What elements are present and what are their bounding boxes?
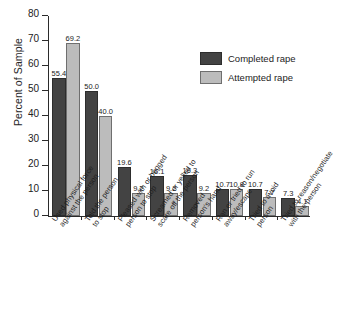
- y-axis-tick: 30: [42, 140, 48, 141]
- legend-item: Completed rape: [200, 52, 320, 65]
- x-axis-labels: Used physical forceagainst the personTol…: [48, 218, 321, 314]
- y-axis-tick: 60: [42, 65, 48, 66]
- bar-value-label: 19.6: [117, 158, 132, 167]
- y-axis-line: [48, 16, 49, 217]
- bar-value-label: 50.0: [84, 82, 99, 91]
- bar-value-label: 40.0: [98, 107, 113, 116]
- legend-label: Completed rape: [228, 53, 296, 64]
- y-axis-tick-label: 50: [28, 83, 39, 94]
- legend-swatch-completed-rape: [200, 52, 222, 65]
- bar-completed-rape: 55.4: [52, 78, 66, 217]
- y-axis-tick: 0: [42, 215, 48, 216]
- y-axis-tick-label: 60: [28, 58, 39, 69]
- y-axis-tick-label: 40: [28, 108, 39, 119]
- y-axis-tick-label: 10: [28, 183, 39, 194]
- y-axis-tick-label: 30: [28, 133, 39, 144]
- y-axis-tick: 40: [42, 115, 48, 116]
- y-axis-tick: 20: [42, 165, 48, 166]
- y-axis-tick-label: 0: [33, 208, 39, 219]
- y-axis-tick-label: 20: [28, 158, 39, 169]
- y-axis-tick-label: 70: [28, 33, 39, 44]
- y-axis-tick: 10: [42, 190, 48, 191]
- bar-value-label: 69.2: [66, 34, 81, 43]
- y-axis-tick-label: 80: [28, 8, 39, 19]
- y-axis-title: Percent of Sample: [12, 12, 24, 152]
- legend-label: Attempted rape: [228, 72, 293, 83]
- y-axis-tick: 80: [42, 15, 48, 16]
- chart-legend: Completed rapeAttempted rape: [200, 52, 320, 90]
- y-axis-tick: 50: [42, 90, 48, 91]
- legend-swatch-attempted-rape: [200, 71, 222, 84]
- bar-value-label: 55.4: [52, 69, 67, 78]
- y-axis-tick: 70: [42, 40, 48, 41]
- legend-item: Attempted rape: [200, 71, 320, 84]
